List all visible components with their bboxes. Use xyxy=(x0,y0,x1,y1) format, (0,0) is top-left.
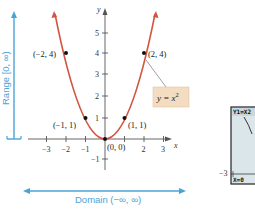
svg-text:−3: −3 xyxy=(42,145,51,154)
svg-text:−2: −2 xyxy=(62,145,71,154)
svg-text:2: 2 xyxy=(95,92,99,101)
point-label: (1, 1) xyxy=(128,120,147,130)
y-axis-label: y xyxy=(96,5,101,14)
svg-text:1: 1 xyxy=(95,114,99,123)
svg-text:5: 5 xyxy=(95,29,99,38)
svg-text:2: 2 xyxy=(142,145,146,154)
point-label: (0, 0) xyxy=(107,142,126,152)
curve-arrow-right xyxy=(153,11,159,18)
svg-text:3: 3 xyxy=(161,145,165,154)
equation-label: y = x2 xyxy=(156,91,179,103)
range-indicator: Range [0, ∞) xyxy=(0,11,21,139)
svg-text:−1: −1 xyxy=(91,155,100,164)
svg-text:−1: −1 xyxy=(81,145,90,154)
point-label: (−2, 4) xyxy=(33,49,56,59)
range-label: Range [0, ∞) xyxy=(0,51,11,105)
domain-label: Domain (−∞, ∞) xyxy=(75,194,141,205)
point-label: (2, 4) xyxy=(148,49,167,59)
calculator-screen: Y1=X2 X=0 xyxy=(231,107,255,184)
calc-left-tick: −3 xyxy=(219,169,228,178)
tick-labels: −3 −2 −1 2 3 x 5 4 3 2 1 −1 y xyxy=(42,5,178,164)
parabola-figure: Range [0, ∞) −3 −2 −1 2 3 x 5 4 3 2 xyxy=(0,0,255,214)
curve-arrow-left xyxy=(52,11,58,18)
svg-text:3: 3 xyxy=(95,70,99,79)
leader-line xyxy=(146,60,166,87)
domain-indicator: Domain (−∞, ∞) xyxy=(23,188,186,205)
point-label: (−1, 1) xyxy=(53,120,76,130)
calc-function-text: Y1=X2 xyxy=(233,108,251,115)
svg-text:4: 4 xyxy=(95,49,99,58)
x-axis-label: x xyxy=(173,141,178,150)
calc-x-value: X=0 xyxy=(233,176,244,183)
